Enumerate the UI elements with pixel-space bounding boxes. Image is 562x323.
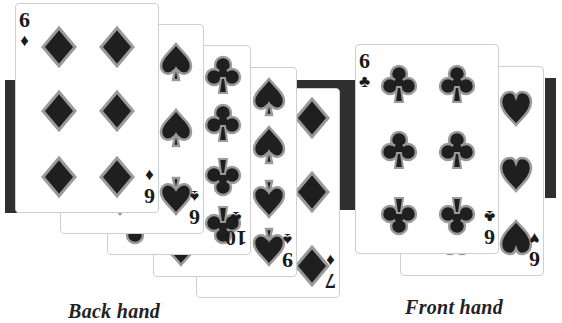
diamond-pip-icon [293, 171, 331, 213]
club-pip-icon [380, 195, 418, 237]
club-suit-icon: ♣ [230, 209, 241, 226]
card-corner: 6 ♦ [19, 9, 30, 49]
heart-pip-icon [497, 153, 535, 195]
card-rank: 6 [19, 9, 30, 31]
diamond-pip-icon [293, 97, 331, 139]
diamond-suit-icon: ♦ [20, 32, 29, 49]
card-corner: 6 ♦ [144, 167, 155, 207]
diamond-suit-icon: ♦ [326, 252, 335, 269]
card-corner: 9 ♠ [282, 231, 293, 271]
spade-suit-icon: ♠ [283, 231, 292, 248]
diamond-pip-icon [98, 26, 136, 68]
front-hand-right-bar [545, 78, 556, 198]
card-corner: 6 ♠ [189, 188, 200, 228]
card-6-clubs[interactable]: 6 ♣ 6 ♣ [355, 44, 499, 254]
card-6-diamonds[interactable]: 6 ♦ 6 ♦ [15, 3, 159, 213]
club-pip-icon [204, 54, 242, 96]
card-rank: 10 [225, 227, 247, 249]
spade-pip-icon [157, 107, 195, 149]
card-corner: 7 ♦ [325, 252, 336, 292]
front-hand-label: Front hand [405, 296, 503, 319]
club-pip-icon [380, 129, 418, 171]
spade-pip-icon [250, 178, 288, 220]
card-corner: 10 ♣ [225, 209, 247, 249]
spade-pip-icon [250, 124, 288, 166]
card-rank: 6 [144, 185, 155, 207]
club-pip-icon [204, 102, 242, 144]
back-hand-label: Back hand [68, 300, 160, 323]
spade-pip-icon [157, 41, 195, 83]
club-pip-icon [438, 63, 476, 105]
spade-suit-icon: ♠ [190, 188, 199, 205]
heart-suit-icon: ♥ [529, 230, 539, 247]
card-rank: 6 [529, 248, 540, 270]
diamond-pip-icon [40, 90, 78, 132]
spade-pip-icon [250, 76, 288, 118]
front-hand-left-bar [340, 80, 355, 210]
card-corner: 6 ♣ [359, 50, 370, 90]
diamond-suit-icon: ♦ [145, 167, 154, 184]
diamond-pip-icon [98, 156, 136, 198]
card-rank: 6 [484, 226, 495, 248]
club-pip-icon [380, 63, 418, 105]
card-corner: 6 ♥ [529, 230, 540, 270]
card-rank: 6 [189, 206, 200, 228]
card-corner: 6 ♣ [484, 208, 495, 248]
card-rank: 9 [282, 249, 293, 271]
diamond-pip-icon [98, 90, 136, 132]
diamond-pip-icon [40, 26, 78, 68]
card-rank: 6 [359, 50, 370, 72]
club-suit-icon: ♣ [484, 208, 495, 225]
club-pip-icon [204, 156, 242, 198]
heart-pip-icon [497, 87, 535, 129]
card-rank: 7 [325, 270, 336, 292]
diamond-pip-icon [40, 156, 78, 198]
club-suit-icon: ♣ [359, 73, 370, 90]
club-pip-icon [438, 129, 476, 171]
club-pip-icon [438, 195, 476, 237]
